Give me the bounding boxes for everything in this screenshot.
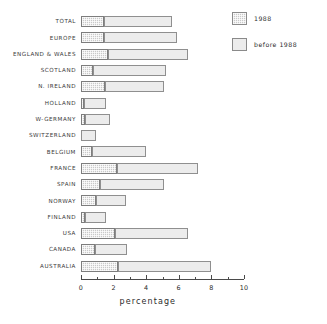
x-axis-minor-tick	[228, 277, 229, 279]
bar-segment-recent	[81, 244, 95, 255]
x-axis-tick-label: 10	[240, 284, 249, 292]
category-label: ENGLAND & WALES	[0, 52, 76, 58]
bar-segment-recent	[81, 65, 93, 76]
bar-segment-recent	[81, 49, 108, 60]
x-axis-tick-label: 4	[144, 284, 148, 292]
legend-swatch-hatched-icon	[232, 12, 247, 25]
bar-segment-before	[117, 163, 199, 174]
category-label: HOLLAND	[0, 101, 76, 107]
bar-segment-before	[104, 16, 172, 27]
x-axis-line	[81, 279, 244, 280]
legend-swatch-light-icon	[232, 38, 247, 51]
bar-segment-recent	[81, 228, 115, 239]
bar-segment-recent	[81, 261, 118, 272]
category-label: N. IRELAND	[0, 84, 76, 90]
category-label: SPAIN	[0, 182, 76, 188]
bar-segment-before	[85, 212, 106, 223]
legend-item-recent: 1988	[232, 12, 272, 25]
x-axis-tick	[81, 275, 82, 279]
bar-segment-before	[104, 32, 177, 43]
bar-segment-recent	[81, 81, 105, 92]
category-label: USA	[0, 231, 76, 237]
bar-segment-before	[95, 244, 128, 255]
bar-segment-before	[105, 81, 164, 92]
category-label: FRANCE	[0, 166, 76, 172]
bar-segment-before	[96, 195, 125, 206]
bar-chart: TOTALEUROPEENGLAND & WALESSCOTLANDN. IRE…	[0, 0, 327, 324]
bar-segment-before	[81, 130, 96, 141]
x-axis-tick	[211, 275, 212, 279]
category-label: AUSTRALIA	[0, 264, 76, 270]
legend-label-before: before 1988	[254, 41, 297, 48]
category-label: W-GERMANY	[0, 117, 76, 123]
x-axis-tick-label: 0	[79, 284, 83, 292]
bar-segment-before	[115, 228, 188, 239]
x-axis-tick	[146, 275, 147, 279]
bar-segment-before	[100, 179, 164, 190]
plot-area: 0246810	[81, 0, 245, 324]
bar-segment-before	[85, 114, 109, 125]
category-label: SWITZERLAND	[0, 133, 76, 139]
x-axis-minor-tick	[195, 277, 196, 279]
x-axis-minor-tick	[130, 277, 131, 279]
bar-segment-before	[118, 261, 211, 272]
x-axis-tick-label: 8	[209, 284, 213, 292]
bar-segment-before	[108, 49, 188, 60]
x-axis-minor-tick	[163, 277, 164, 279]
bar-segment-recent	[81, 146, 92, 157]
category-label: CANADA	[0, 247, 76, 253]
bar-segment-before	[84, 98, 106, 109]
category-label: SCOTLAND	[0, 68, 76, 74]
x-axis-tick-label: 6	[177, 284, 181, 292]
legend-label-recent: 1988	[254, 15, 272, 22]
legend-item-before: before 1988	[232, 38, 297, 51]
x-axis-tick-label: 2	[111, 284, 115, 292]
x-axis-tick	[179, 275, 180, 279]
category-label: NORWAY	[0, 199, 76, 205]
bar-segment-recent	[81, 32, 104, 43]
bar-segment-recent	[81, 163, 117, 174]
category-label: BELGIUM	[0, 150, 76, 156]
bar-segment-before	[92, 146, 147, 157]
bar-segment-recent	[81, 195, 96, 206]
category-label: FINLAND	[0, 215, 76, 221]
x-axis-tick	[114, 275, 115, 279]
x-axis-minor-tick	[97, 277, 98, 279]
category-axis-labels: TOTALEUROPEENGLAND & WALESSCOTLANDN. IRE…	[0, 0, 76, 324]
bar-segment-recent	[81, 16, 104, 27]
x-axis-title: percentage	[120, 297, 177, 306]
x-axis-tick	[244, 275, 245, 279]
category-label: TOTAL	[0, 19, 76, 25]
bar-segment-recent	[81, 179, 100, 190]
category-label: EUROPE	[0, 36, 76, 42]
bar-segment-before	[93, 65, 166, 76]
